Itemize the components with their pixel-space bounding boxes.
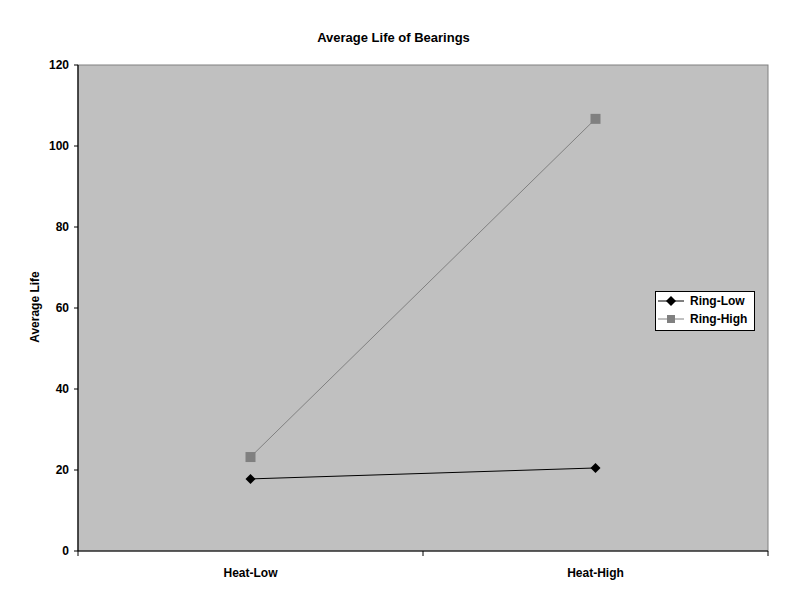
y-tick-label: 0	[62, 544, 69, 558]
y-tick-label: 20	[56, 463, 70, 477]
diamond-marker-icon	[656, 292, 686, 310]
legend-item-ring-high: Ring-High	[656, 310, 754, 328]
y-tick-label: 60	[56, 301, 70, 315]
legend-label: Ring-Low	[690, 294, 745, 308]
y-tick-label: 40	[56, 382, 70, 396]
x-tick-label: Heat-Low	[224, 566, 279, 580]
legend: Ring-Low Ring-High	[655, 291, 755, 331]
legend-item-ring-low: Ring-Low	[656, 292, 754, 310]
x-tick-label: Heat-High	[567, 566, 624, 580]
data-point	[591, 114, 601, 124]
y-tick-label: 80	[56, 220, 70, 234]
data-point	[246, 452, 256, 462]
square-marker-icon	[656, 310, 686, 328]
y-tick-label: 100	[49, 139, 69, 153]
legend-label: Ring-High	[690, 312, 747, 326]
y-tick-label: 120	[49, 58, 69, 72]
